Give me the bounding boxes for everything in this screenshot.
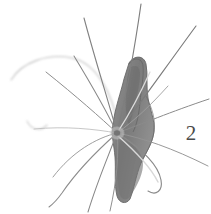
setae-hub [109, 126, 125, 140]
figure-plate: 2 [0, 0, 211, 214]
figure-number-label: 2 [180, 120, 202, 146]
figure-illustration [0, 0, 211, 214]
plate-background [0, 0, 211, 214]
